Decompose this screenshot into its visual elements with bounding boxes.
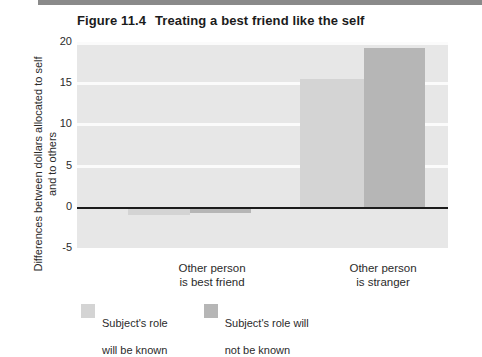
y-tick-20: 20 [42,35,72,47]
legend-swatch-role-known [81,304,95,318]
x-category-best-friend-line1: Other person [137,261,287,275]
y-tick-0: 0 [42,200,72,212]
legend-label-role-not-known-line1: Subject's role will [225,317,309,329]
bar-stranger-role-not-known [364,48,425,207]
legend-item-role-known[interactable]: Subject's role will be known [81,303,168,357]
legend-label-role-not-known-line2: not be known [225,344,290,356]
plot-area [77,42,448,248]
x-category-best-friend: Other person is best friend [137,261,287,289]
legend-label-role-known-line1: Subject's role [102,317,168,329]
legend-label-role-known: Subject's role will be known [102,303,168,357]
legend-swatch-role-not-known [204,304,218,318]
bar-stranger-role-known [300,79,364,207]
y-tick-10: 10 [42,117,72,129]
x-category-best-friend-line2: is best friend [137,275,287,289]
x-category-stranger: Other person is stranger [308,261,458,289]
figure-title: Treating a best friend like the self [155,13,365,28]
legend-item-role-not-known[interactable]: Subject's role will not be known [204,303,309,357]
x-category-stranger-line2: is stranger [308,275,458,289]
legend-label-role-not-known: Subject's role will not be known [225,303,309,357]
page-top-rule [38,0,482,5]
y-tick-5: 5 [42,159,72,171]
zero-baseline [77,207,448,209]
chart-legend: Subject's role will be known Subject's r… [81,303,309,357]
y-axis-tick-labels: 20 15 10 5 0 -5 [40,42,72,248]
x-category-stranger-line1: Other person [308,261,458,275]
y-tick-neg5: -5 [42,241,72,253]
figure-number: Figure 11.4 [77,13,146,28]
y-tick-15: 15 [42,76,72,88]
legend-label-role-known-line2: will be known [102,344,167,356]
figure-title-row: Figure 11.4 Treating a best friend like … [77,13,365,28]
gridline-20 [77,42,448,45]
